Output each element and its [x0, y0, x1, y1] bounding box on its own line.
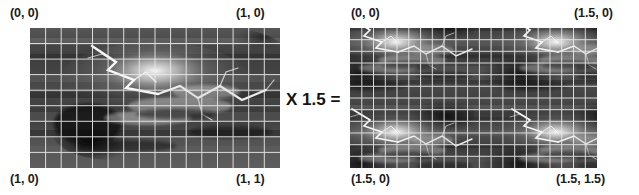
- texture-image-scaled: [350, 28, 597, 168]
- multiply-operator-label: X 1.5 =: [286, 91, 340, 108]
- right-panel-corner-top-right: (1.5, 0): [574, 7, 613, 20]
- right-panel-corner-bottom-left: (1.5, 0): [351, 173, 390, 186]
- left-panel-corner-bottom-left: (1, 0): [10, 173, 39, 186]
- right-panel-corner-bottom-right: (1.5, 1.5): [556, 173, 605, 186]
- left-panel-corner-top-left: (0, 0): [10, 7, 39, 20]
- uv-panel-original: [30, 28, 280, 168]
- left-panel-corner-bottom-right: (1, 1): [236, 173, 265, 186]
- right-panel-corner-top-left: (0, 0): [351, 7, 380, 20]
- uv-panel-scaled: [350, 28, 597, 168]
- left-panel-corner-top-right: (1, 0): [236, 7, 265, 20]
- figure-root: (0, 0) (1, 0): [0, 0, 639, 195]
- texture-image-original: [30, 28, 280, 168]
